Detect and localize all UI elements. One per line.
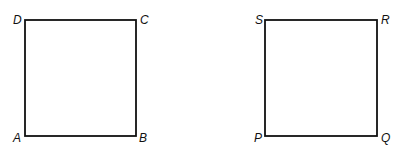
vertex-label-q: Q — [381, 131, 390, 145]
vertex-label-s: S — [255, 13, 263, 27]
diagram-canvas: D C A B S R P Q — [0, 0, 399, 152]
square-pqrs-outline — [265, 20, 377, 136]
vertex-label-r: R — [381, 13, 390, 27]
vertex-label-a: A — [12, 131, 21, 145]
square-pqrs: S R P Q — [254, 13, 390, 145]
vertex-label-d: D — [13, 13, 22, 27]
vertex-label-b: B — [139, 131, 147, 145]
square-abcd: D C A B — [12, 13, 149, 145]
vertex-label-p: P — [254, 131, 262, 145]
square-abcd-outline — [25, 20, 136, 136]
vertex-label-c: C — [140, 13, 149, 27]
